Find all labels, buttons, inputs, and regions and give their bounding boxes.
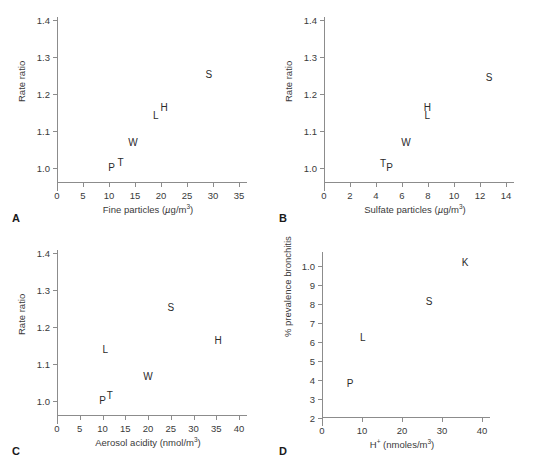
x-tick-label-b-0: 0 bbox=[321, 190, 326, 201]
data-point-a-t: T bbox=[117, 158, 123, 168]
data-point-a-l: L bbox=[153, 111, 159, 121]
y-axis-title-c: Rate ratio bbox=[16, 293, 27, 334]
y-tick-label-b-4: 1.4 bbox=[304, 15, 317, 26]
data-point-a-s: S bbox=[205, 70, 212, 80]
panel-letter-c: C bbox=[12, 445, 20, 457]
y-tick-a-1 bbox=[53, 131, 57, 132]
x-axis-title-c: Aerosol acidity (nmol/m3) bbox=[57, 437, 239, 448]
x-tick-label-b-3: 6 bbox=[399, 190, 404, 201]
figure-four-panel-scatter: Rate ratio Fine particles (µg/m3) 051015… bbox=[0, 0, 534, 465]
y-tick-label-c-4: 1.4 bbox=[37, 248, 50, 259]
y-tick-label-d-0: 2 bbox=[310, 413, 315, 424]
y-tick-label-c-3: 1.3 bbox=[37, 285, 50, 296]
plot-area-b: Rate ratio Sulfate particles (µg/m3) 024… bbox=[324, 20, 506, 183]
x-tick-label-a-0: 0 bbox=[54, 190, 59, 201]
y-tick-d-3 bbox=[318, 361, 322, 362]
y-tick-b-1 bbox=[320, 131, 324, 132]
x-tick-label-d-3: 30 bbox=[437, 425, 448, 436]
x-tick-label-c-8: 40 bbox=[234, 423, 245, 434]
x-tick-label-c-3: 15 bbox=[120, 423, 131, 434]
x-tick-c-7 bbox=[216, 416, 217, 420]
x-tick-b-7 bbox=[506, 183, 507, 187]
y-tick-c-4 bbox=[53, 253, 57, 254]
x-tick-label-d-2: 20 bbox=[397, 425, 408, 436]
x-tick-d-0 bbox=[322, 418, 323, 422]
x-tick-label-c-7: 35 bbox=[211, 423, 222, 434]
y-tick-label-a-2: 1.2 bbox=[37, 89, 50, 100]
x-tick-b-3 bbox=[402, 183, 403, 187]
x-axis-title-b: Sulfate particles (µg/m3) bbox=[324, 204, 506, 215]
y-tick-label-c-1: 1.1 bbox=[37, 359, 50, 370]
data-point-b-p: P bbox=[386, 163, 393, 173]
y-tick-d-8 bbox=[318, 266, 322, 267]
x-tick-label-d-1: 10 bbox=[357, 425, 368, 436]
y-axis-line-d bbox=[322, 252, 323, 426]
y-tick-b-0 bbox=[320, 168, 324, 169]
x-axis-line-d bbox=[322, 417, 490, 418]
x-tick-c-0 bbox=[57, 416, 58, 420]
data-point-d-s: S bbox=[426, 297, 433, 307]
y-tick-c-3 bbox=[53, 290, 57, 291]
data-point-b-s: S bbox=[486, 73, 493, 83]
y-tick-label-d-8: 1.0 bbox=[302, 261, 315, 272]
y-tick-b-3 bbox=[320, 57, 324, 58]
x-tick-b-6 bbox=[480, 183, 481, 187]
y-tick-label-d-1: 3 bbox=[310, 394, 315, 405]
x-tick-label-a-1: 5 bbox=[80, 190, 85, 201]
y-tick-label-a-4: 1.4 bbox=[37, 15, 50, 26]
plot-area-d: % prevalence bronchitis H+ (nmoles/m3) 0… bbox=[322, 255, 482, 418]
x-tick-label-a-7: 35 bbox=[234, 190, 245, 201]
data-point-b-t: T bbox=[380, 159, 386, 169]
y-tick-label-b-2: 1.2 bbox=[304, 89, 317, 100]
x-tick-c-3 bbox=[125, 416, 126, 420]
y-axis-line-a bbox=[57, 17, 58, 191]
y-tick-b-2 bbox=[320, 94, 324, 95]
x-tick-c-1 bbox=[80, 416, 81, 420]
x-tick-d-1 bbox=[362, 418, 363, 422]
y-axis-title-b: Rate ratio bbox=[283, 60, 294, 101]
x-tick-a-6 bbox=[213, 183, 214, 187]
panel-letter-d: D bbox=[279, 445, 287, 457]
x-axis-line-b bbox=[324, 182, 514, 183]
x-tick-d-4 bbox=[482, 418, 483, 422]
x-tick-label-d-0: 0 bbox=[319, 425, 324, 436]
data-point-a-p: P bbox=[108, 163, 115, 173]
x-tick-label-c-4: 20 bbox=[143, 423, 154, 434]
y-axis-title-a: Rate ratio bbox=[16, 60, 27, 101]
y-tick-label-b-1: 1.1 bbox=[304, 126, 317, 137]
y-tick-c-0 bbox=[53, 401, 57, 402]
y-tick-d-7 bbox=[318, 285, 322, 286]
x-axis-title-a: Fine particles (µg/m3) bbox=[57, 204, 239, 215]
x-axis-line-c bbox=[57, 415, 247, 416]
y-tick-label-d-7: 9 bbox=[310, 280, 315, 291]
data-point-a-h: H bbox=[160, 103, 167, 113]
y-axis-title-d: % prevalence bronchitis bbox=[282, 236, 293, 337]
data-point-c-s: S bbox=[167, 303, 174, 313]
y-tick-label-d-6: 8 bbox=[310, 299, 315, 310]
x-tick-label-b-1: 2 bbox=[347, 190, 352, 201]
x-tick-c-8 bbox=[239, 416, 240, 420]
x-tick-b-0 bbox=[324, 183, 325, 187]
x-tick-b-4 bbox=[428, 183, 429, 187]
data-point-d-l: L bbox=[360, 333, 366, 343]
data-point-c-l: L bbox=[102, 345, 108, 355]
y-tick-label-d-5: 7 bbox=[310, 318, 315, 329]
y-tick-label-b-0: 1.0 bbox=[304, 163, 317, 174]
y-tick-label-d-2: 4 bbox=[310, 375, 315, 386]
panel-a: Rate ratio Fine particles (µg/m3) 051015… bbox=[0, 0, 267, 232]
x-tick-label-b-7: 14 bbox=[501, 190, 512, 201]
x-axis-title-d: H+ (nmoles/m3) bbox=[322, 439, 482, 450]
data-point-c-h: H bbox=[214, 336, 221, 346]
panel-b: Rate ratio Sulfate particles (µg/m3) 024… bbox=[267, 0, 534, 232]
data-point-d-p: P bbox=[347, 379, 354, 389]
y-tick-a-2 bbox=[53, 94, 57, 95]
x-tick-label-a-3: 15 bbox=[130, 190, 141, 201]
y-axis-line-b bbox=[324, 17, 325, 191]
x-tick-a-4 bbox=[161, 183, 162, 187]
x-tick-a-3 bbox=[135, 183, 136, 187]
x-tick-label-c-6: 30 bbox=[188, 423, 199, 434]
panel-c: Rate ratio Aerosol acidity (nmol/m3) 051… bbox=[0, 233, 267, 465]
x-tick-label-b-4: 8 bbox=[425, 190, 430, 201]
x-tick-d-2 bbox=[402, 418, 403, 422]
x-tick-label-a-2: 10 bbox=[104, 190, 115, 201]
